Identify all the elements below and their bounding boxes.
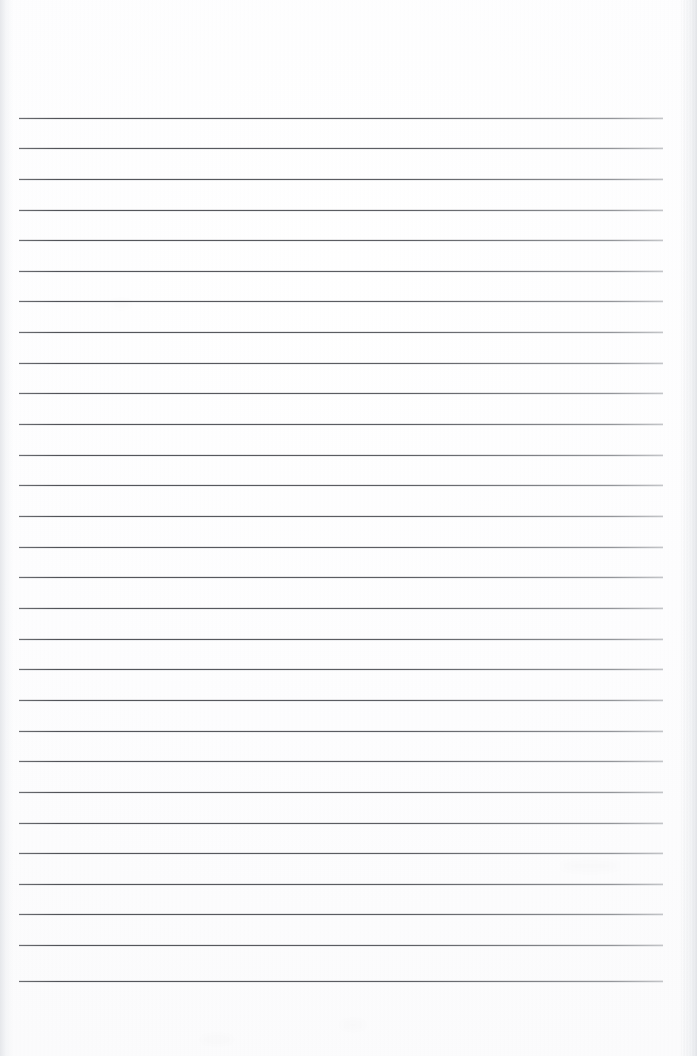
ruled-line xyxy=(19,424,663,425)
ruled-line xyxy=(19,301,663,302)
ruled-line xyxy=(19,179,663,180)
ruled-line xyxy=(19,210,663,211)
ruled-line xyxy=(19,271,663,272)
ruled-line xyxy=(19,363,663,364)
ruled-line xyxy=(19,608,663,609)
ruled-line xyxy=(19,516,663,517)
ruled-line xyxy=(19,792,663,793)
ruled-line xyxy=(19,240,663,241)
ruled-line xyxy=(19,914,663,915)
ruled-line xyxy=(19,455,663,456)
ruled-lines-layer xyxy=(0,0,697,1056)
ruled-line xyxy=(19,577,663,578)
ruled-line xyxy=(19,945,663,946)
scanned-page xyxy=(0,0,697,1056)
ruled-line xyxy=(19,731,663,732)
ruled-line xyxy=(19,393,663,394)
ruled-line xyxy=(19,148,663,149)
ruled-line xyxy=(19,823,663,824)
ruled-line xyxy=(19,761,663,762)
ruled-line xyxy=(19,118,663,119)
ruled-line xyxy=(19,669,663,670)
ruled-line xyxy=(19,853,663,854)
ruled-line xyxy=(19,547,663,548)
ruled-line xyxy=(19,332,663,333)
ruled-line xyxy=(19,485,663,486)
ruled-line xyxy=(19,700,663,701)
ruled-line xyxy=(19,981,663,982)
ruled-line xyxy=(19,639,663,640)
ruled-line xyxy=(19,884,663,885)
